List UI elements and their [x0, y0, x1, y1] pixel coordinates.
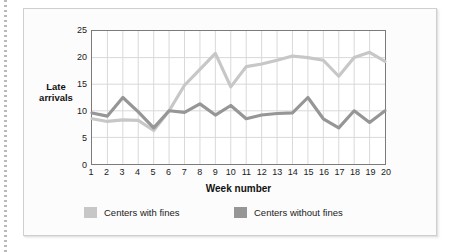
y-tick-label-0: 0: [82, 160, 87, 170]
x-tick-label-10: 10: [226, 167, 236, 177]
legend-swatch-icon-without-fines: [234, 207, 247, 218]
x-axis-tick-labels: 1234567891011121314151617181920: [91, 167, 386, 181]
x-axis-title: Week number: [91, 183, 386, 194]
x-tick-label-2: 2: [104, 167, 109, 177]
y-tick-label-10: 10: [77, 106, 87, 116]
x-tick-label-7: 7: [182, 167, 187, 177]
x-tick-label-8: 8: [197, 167, 202, 177]
legend-label-without-fines: Centers without fines: [254, 207, 343, 218]
y-tick-label-5: 5: [82, 133, 87, 143]
series-lines: [92, 31, 385, 164]
plot-area: [91, 30, 386, 165]
plot-wrapper: Late arrivals 0510152025 123456789101112…: [24, 9, 438, 237]
chart-legend: Centers with fines Centers without fines: [84, 205, 384, 221]
page-edge-dotted-rule: [4, 0, 7, 252]
x-tick-label-19: 19: [365, 167, 375, 177]
x-tick-label-1: 1: [88, 167, 93, 177]
x-tick-label-5: 5: [151, 167, 156, 177]
chart-figure-container: Late arrivals 0510152025 123456789101112…: [23, 8, 437, 236]
y-tick-label-20: 20: [77, 52, 87, 62]
x-tick-label-18: 18: [350, 167, 360, 177]
x-tick-label-13: 13: [272, 167, 282, 177]
y-tick-label-15: 15: [77, 79, 87, 89]
x-tick-label-4: 4: [135, 167, 140, 177]
y-axis-tick-labels: 0510152025: [64, 30, 87, 165]
x-tick-label-11: 11: [242, 167, 251, 177]
x-tick-label-14: 14: [288, 167, 298, 177]
x-tick-label-20: 20: [381, 167, 391, 177]
x-tick-label-3: 3: [120, 167, 125, 177]
legend-item-centers-without-fines: Centers without fines: [234, 205, 343, 219]
series-line-0: [92, 52, 385, 130]
legend-item-centers-with-fines: Centers with fines: [84, 205, 180, 219]
legend-swatch-icon-with-fines: [84, 207, 97, 218]
legend-label-with-fines: Centers with fines: [104, 207, 180, 218]
x-tick-label-9: 9: [213, 167, 218, 177]
series-line-1: [92, 98, 385, 128]
x-tick-label-16: 16: [319, 167, 329, 177]
x-tick-label-15: 15: [303, 167, 313, 177]
y-tick-label-25: 25: [77, 25, 87, 35]
x-tick-label-6: 6: [166, 167, 171, 177]
x-tick-label-12: 12: [257, 167, 267, 177]
page-canvas: Late arrivals 0510152025 123456789101112…: [0, 0, 462, 252]
x-tick-label-17: 17: [334, 167, 344, 177]
